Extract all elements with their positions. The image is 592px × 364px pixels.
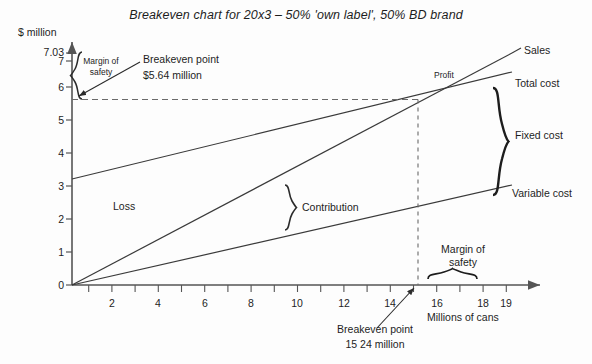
x-axis-name: Millions of cans	[427, 311, 499, 323]
total-cost-line	[72, 72, 512, 179]
y-tick-5: 5	[26, 114, 64, 126]
x-tick-10: 10	[282, 297, 312, 309]
y-tick-6: 6	[26, 81, 64, 93]
fixed-cost-series-label: Fixed cost	[515, 129, 563, 141]
x-tick-4: 4	[143, 297, 173, 309]
x-tick-19: 19	[491, 297, 521, 309]
y-tick-1: 1	[26, 246, 64, 258]
contribution-label: Contribution	[302, 201, 359, 213]
breakeven-volume-label-line1: Breakeven point	[305, 323, 445, 335]
margin-of-safety-right-label-line1: Margin of	[420, 243, 506, 255]
x-axis	[72, 285, 540, 292]
breakeven-chart-page: Breakeven chart for 20x3 – 50% 'own labe…	[0, 0, 592, 364]
total-cost-series-label: Total cost	[515, 77, 559, 89]
sales-series-label: Sales	[524, 44, 550, 56]
x-tick-8: 8	[236, 297, 266, 309]
y-tick-3: 3	[26, 180, 64, 192]
y-axis-name: $ million	[18, 26, 57, 38]
x-tick-6: 6	[190, 297, 220, 309]
y-tick-7: 7	[26, 55, 64, 67]
breakeven-value-label-line2: $5.64 million	[143, 69, 202, 81]
x-tick-14: 14	[375, 297, 405, 309]
variable-cost-series-label: Variable cost	[512, 187, 572, 199]
fixed-cost-brace	[493, 88, 509, 195]
breakeven-value-label-line1: Breakeven point	[143, 53, 219, 65]
y-tick-0: 0	[26, 279, 64, 291]
loss-label: Loss	[113, 200, 135, 212]
profit-label: Profit	[434, 71, 454, 81]
x-tick-2: 2	[97, 297, 127, 309]
y-axis	[66, 42, 72, 285]
margin-of-safety-left-label-line1: Margin of	[70, 57, 132, 67]
margin-of-safety-left-label-line2: safety	[70, 68, 132, 78]
y-tick-2: 2	[26, 213, 64, 225]
y-tick-4: 4	[26, 147, 64, 159]
x-tick-16: 16	[422, 297, 452, 309]
sales-label-leader	[512, 48, 521, 53]
chart-canvas	[0, 0, 592, 364]
margin-of-safety-right-brace	[428, 269, 477, 280]
contribution-brace	[285, 185, 297, 230]
breakeven-volume-label-line2: 15 24 million	[305, 338, 445, 350]
margin-of-safety-right-label-line2: safety	[420, 256, 506, 268]
x-tick-12: 12	[329, 297, 359, 309]
